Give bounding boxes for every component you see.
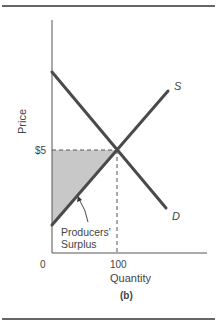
x-axis-title: Quantity	[110, 272, 151, 284]
annotation-arrow	[79, 199, 88, 222]
demand-label: D	[172, 210, 180, 222]
quantity-tick-label: 100	[110, 259, 127, 270]
panel-label: (b)	[120, 290, 133, 301]
surplus-label-line1: Producers'	[61, 226, 111, 238]
origin-label: 0	[40, 259, 46, 270]
surplus-label-line2: Surplus	[61, 238, 97, 250]
supply-label: S	[174, 80, 182, 92]
price-tick-label: $5	[35, 145, 47, 156]
chart: S D Producers' Surplus $5 0 100 Price Qu…	[0, 0, 219, 325]
y-axis-title: Price	[16, 109, 28, 134]
